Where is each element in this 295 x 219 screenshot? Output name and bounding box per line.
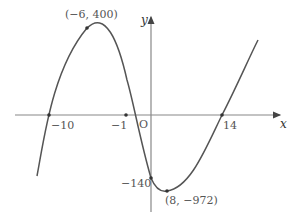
y-axis-label: y — [140, 13, 148, 27]
origin-label: O — [139, 118, 148, 131]
cubic-graph: (−6, 400) (8, −972) −10 −1 14 −140 O x y — [0, 0, 295, 219]
x-root-label-a: −10 — [51, 119, 74, 132]
root-point-c — [220, 113, 224, 117]
x-axis-label: x — [280, 117, 287, 131]
x-root-label-b: −1 — [111, 119, 127, 132]
max-point-label: (−6, 400) — [65, 8, 118, 21]
y-intercept-label: −140 — [121, 177, 151, 190]
root-point-b — [124, 113, 128, 117]
local-min-point — [165, 189, 169, 193]
cubic-curve — [37, 23, 258, 192]
root-point-a — [47, 113, 51, 117]
x-root-label-c: 14 — [223, 119, 237, 132]
min-point-label: (8, −972) — [165, 194, 218, 207]
local-max-point — [85, 26, 89, 30]
